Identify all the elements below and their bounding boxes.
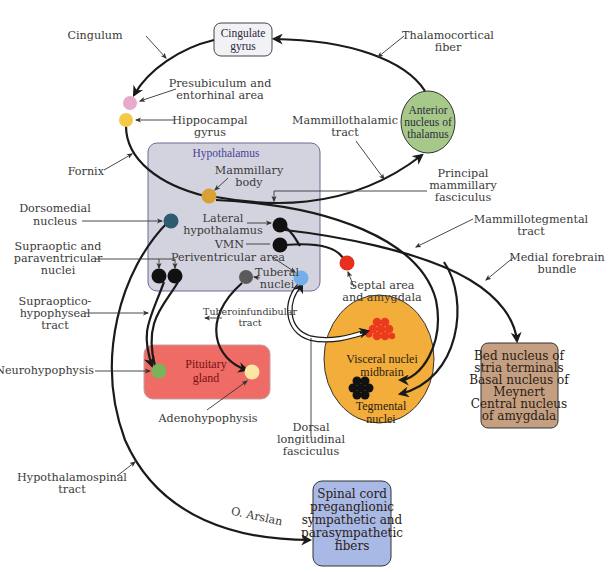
adenohypophysis-dot [245, 365, 260, 380]
thalamocortical-label-2: fiber [435, 41, 462, 54]
hippocampal-label-2: gyrus [194, 126, 226, 139]
supraoptic-dot [152, 269, 167, 284]
spinal-label-5: fibers [335, 539, 370, 553]
fornix-label: Fornix [68, 165, 105, 178]
spinal-label-2: preganglionic [310, 500, 394, 514]
anterior-thalamus-label-1: Anterior [409, 104, 448, 116]
dorsomedial-label-2: nucleus [33, 215, 77, 228]
hypothalamus-connections-diagram: Hypothalamus Cingulate gyrus Anterior nu… [0, 0, 608, 572]
spinal-label-1: Spinal cord [317, 487, 387, 501]
pituitary-label-1: Pituitary [185, 357, 226, 371]
hypothalamospinal-label-2: tract [58, 483, 86, 496]
mammillary-body-dot [202, 189, 217, 204]
cingulate-gyrus-label-2: gyrus [230, 40, 256, 53]
lateral-hypothalamus-dot [273, 218, 288, 233]
mammillotegmental-label-2: tract [517, 225, 545, 238]
presubiculum-dot [123, 96, 137, 110]
periventricular-label: Periventricular area [171, 251, 285, 264]
neurohypophysis-label: Neurohypophysis [0, 364, 94, 377]
vmn-label: VMN [214, 238, 245, 251]
dorsal-longitudinal-label-3: fasciculus [283, 445, 340, 458]
pituitary-label-2: gland [193, 371, 220, 385]
medial-forebrain-label-2: bundle [538, 263, 577, 276]
mammillothalamic-label-2: tract [331, 126, 359, 139]
dorsomedial-nucleus-dot [164, 214, 179, 229]
tuberal-nuclei-dot [239, 270, 253, 284]
supraoptic-label-3: nuclei [41, 264, 76, 277]
anterior-thalamus-label-2: nucleus of [404, 116, 452, 128]
septal-label-2: and amygdala [342, 291, 422, 304]
spinal-label-4: parasympathetic [301, 526, 403, 540]
adenohypophysis-label: Adenohypophysis [158, 412, 258, 425]
hypothalamus-title: Hypothalamus [192, 147, 260, 160]
tuberal-label-2: nuclei [260, 278, 295, 291]
mammillary-body-label-2: body [235, 176, 263, 189]
neurohypophysis-dot [152, 364, 167, 379]
lateral-hypothalamus-label-2: hypothalamus [183, 224, 263, 237]
tegmental-nuclei-label-2: nuclei [366, 412, 396, 426]
hippocampal-dot [119, 113, 133, 127]
tuberoinfundibular-label-1: Tuberoinfundibular [203, 306, 297, 317]
septal-amygdala-dot [340, 256, 355, 271]
tegmental-nuclei-label-1: Tegmental [356, 399, 407, 413]
dorsomedial-label-1: Dorsomedial [19, 202, 91, 215]
anterior-thalamus-label-3: thalamus [407, 128, 449, 140]
principal-mammillary-label-3: fasciculus [435, 191, 492, 204]
bed-nucleus-label-6: of amygdala [482, 409, 556, 423]
tuberoinfundibular-label-2: tract [238, 317, 261, 328]
author-credit: O. Arslan [230, 505, 284, 529]
spinal-label-3: sympathetic and [302, 513, 403, 527]
cingulum-label: Cingulum [67, 29, 122, 42]
presubiculum-label-2: entorhinal area [176, 89, 264, 102]
supraoptico-hypophyseal-label-3: tract [41, 319, 69, 332]
thalamocortical-pathway [274, 39, 425, 91]
visceral-nuclei-label-1: Visceral nuclei [346, 352, 418, 366]
paraventricular-dot [168, 269, 183, 284]
cingulate-gyrus-label-1: Cingulate [221, 27, 266, 40]
